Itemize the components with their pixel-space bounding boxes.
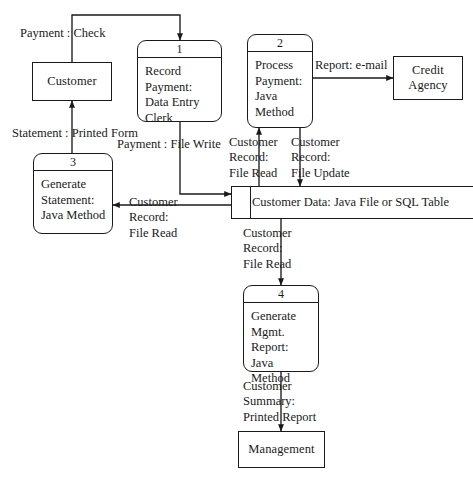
external-entity-customer-label: Customer	[47, 74, 96, 89]
external-entity-management[interactable]: Management	[238, 431, 325, 468]
external-entity-customer[interactable]: Customer	[32, 62, 112, 101]
flow-payment-file-write-arrow	[180, 122, 231, 194]
flow-label-customer-record-file-read-p2: Customer Record: File Read	[229, 135, 278, 181]
process-4-generate-mgmt-report[interactable]: 4 Generate Mgmt. Report: Java Method	[243, 285, 319, 372]
process-2-process-payment[interactable]: 2 Process Payment: Java Method	[247, 34, 313, 128]
data-store-customer-data[interactable]: Customer Data: Java File or SQL Table	[231, 186, 473, 219]
process-1-label: Record Payment: Data Entry Clerk	[138, 58, 221, 128]
dfd-canvas: Customer Credit Agency Management 1 Reco…	[0, 0, 473, 487]
flow-label-customer-summary-printed-report: Customer Summary: Printed Report	[243, 379, 316, 425]
flow-label-payment-file-write: Payment : File Write	[117, 137, 221, 152]
data-store-id-compartment	[232, 187, 251, 218]
process-1-number: 1	[138, 41, 221, 58]
flow-label-customer-record-file-update: Customer Record: File Update	[291, 135, 350, 181]
process-2-label: Process Payment: Java Method	[248, 52, 312, 127]
process-3-number: 3	[34, 154, 112, 171]
data-store-customer-data-label: Customer Data: Java File or SQL Table	[250, 187, 473, 218]
process-4-label: Generate Mgmt. Report: Java Method	[244, 303, 318, 389]
external-entity-credit-agency-label: Credit Agency	[408, 63, 447, 93]
flow-label-payment-check: Payment : Check	[20, 26, 105, 41]
process-3-generate-statement[interactable]: 3 Generate Statement: Java Method	[33, 153, 113, 234]
flow-label-customer-record-file-read-p4: Customer Record: File Read	[243, 226, 292, 272]
external-entity-credit-agency[interactable]: Credit Agency	[393, 56, 463, 100]
process-4-number: 4	[244, 286, 318, 303]
flow-label-customer-record-file-read-p3: Customer Record: File Read	[129, 195, 178, 241]
external-entity-management-label: Management	[248, 442, 314, 457]
flow-label-report-email: Report: e-mail	[315, 58, 388, 73]
process-2-number: 2	[248, 35, 312, 52]
process-3-label: Generate Statement: Java Method	[34, 171, 112, 233]
process-1-record-payment[interactable]: 1 Record Payment: Data Entry Clerk	[137, 40, 222, 122]
